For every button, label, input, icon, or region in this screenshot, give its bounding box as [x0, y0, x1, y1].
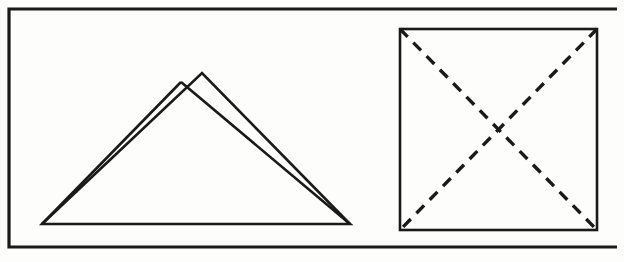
line-drawing-svg — [0, 0, 624, 262]
figure-canvas — [0, 0, 624, 262]
